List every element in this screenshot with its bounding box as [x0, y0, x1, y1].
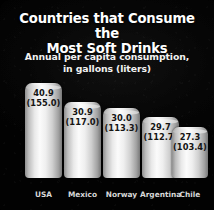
bar-value-usa-liters: (155.0): [25, 99, 62, 109]
bar-group-mexico: 30.9 (117.0): [64, 102, 101, 178]
bar-group-usa: 40.9 (155.0): [25, 83, 62, 178]
bar-norway: 30.0 (113.3): [103, 108, 140, 178]
bar-mexico: 30.9 (117.0): [64, 102, 101, 178]
bar-value-norway: 30.0 (113.3): [103, 114, 140, 133]
category-label-norway: Norway: [103, 190, 140, 199]
bar-value-usa: 40.9 (155.0): [25, 89, 62, 108]
chart-title: Countries that Consume the Most Soft Dri…: [8, 11, 206, 56]
bar-usa: 40.9 (155.0): [25, 83, 62, 178]
bar-value-mexico-liters: (117.0): [64, 118, 101, 128]
plot-area: 40.9 (155.0) 30.9 (117.0) 30.0 (113.3): [0, 80, 214, 178]
bar-chile: 27.3 (103.4): [172, 127, 208, 178]
bar-value-chile: 27.3 (103.4): [172, 133, 208, 152]
bar-value-norway-liters: (113.3): [103, 124, 140, 134]
soft-drinks-bar-chart: Countries that Consume the Most Soft Dri…: [0, 0, 214, 210]
bar-value-chile-liters: (103.4): [172, 143, 208, 153]
chart-subtitle-line-2: in gallons (liters): [10, 63, 204, 75]
bar-group-chile: 27.3 (103.4): [172, 127, 208, 178]
bar-group-norway: 30.0 (113.3): [103, 108, 140, 178]
chart-title-line-1: Countries that Consume the: [8, 11, 206, 41]
category-label-usa: USA: [25, 190, 62, 199]
chart-subtitle-line-1: Annual per capita consumption,: [10, 51, 204, 63]
category-label-mexico: Mexico: [64, 190, 101, 199]
category-label-chile: Chile: [172, 190, 208, 199]
bar-value-mexico: 30.9 (117.0): [64, 108, 101, 127]
chart-subtitle: Annual per capita consumption, in gallon…: [10, 51, 204, 74]
